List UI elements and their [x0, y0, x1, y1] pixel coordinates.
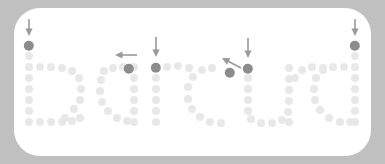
stroke-dot: [198, 66, 206, 74]
stroke-dot: [104, 107, 112, 115]
stroke-dot: [291, 74, 299, 82]
stroke-dot: [130, 85, 138, 93]
stroke-dot: [123, 117, 131, 125]
stroke-dot: [77, 85, 85, 93]
figure-canvas: [0, 0, 385, 164]
stroke-dot: [25, 107, 33, 115]
stroke-dot: [36, 63, 44, 71]
stroke-dot: [340, 63, 348, 71]
stroke-dot: [68, 67, 76, 75]
stroke-dot: [244, 107, 252, 115]
dot-scatter-plot: [0, 0, 385, 164]
stroke-dot: [25, 85, 33, 93]
stroke-dot: [247, 115, 255, 123]
stroke-dot: [319, 66, 327, 74]
stroke-dot: [351, 52, 359, 60]
stroke-dot: [284, 108, 292, 116]
stroke-dot: [58, 64, 66, 72]
stroke-dot: [196, 113, 204, 121]
stroke-dot: [346, 118, 354, 126]
stroke-dot: [285, 86, 293, 94]
stroke-dot: [257, 119, 265, 127]
stroke-dot: [285, 97, 293, 105]
stroke-dot: [188, 105, 196, 113]
stroke-dot: [36, 118, 44, 126]
stroke-dot: [189, 73, 197, 81]
stroke-dot: [47, 63, 55, 71]
stroke-dot: [298, 66, 306, 74]
stroke-dot: [70, 105, 78, 113]
stroke-dot: [336, 118, 344, 126]
stroke-dot: [316, 106, 324, 114]
annotation-arrow-down: [148, 29, 164, 65]
stroke-dot: [75, 74, 83, 82]
stroke-dot: [351, 74, 359, 82]
stroke-dot: [244, 96, 252, 104]
stroke-dot: [25, 118, 33, 126]
stroke-dot: [351, 85, 359, 93]
stroke-dot: [152, 96, 160, 104]
stroke-dot: [329, 63, 337, 71]
stroke-dot: [217, 119, 225, 127]
stroke-dot: [206, 118, 214, 126]
stroke-dot: [152, 74, 160, 82]
stroke-dot: [351, 96, 359, 104]
stroke-dot: [47, 118, 55, 126]
stroke-dot: [312, 74, 320, 82]
stroke-dot: [351, 63, 359, 71]
stroke-dot: [152, 107, 160, 115]
stroke-dot: [25, 52, 33, 60]
stroke-dot: [97, 76, 105, 84]
stroke-dot: [310, 85, 318, 93]
stroke-dot: [130, 118, 138, 126]
stroke-dot: [130, 96, 138, 104]
stroke-dot: [152, 118, 160, 126]
stroke-dot: [113, 114, 121, 122]
stroke-dot: [96, 87, 104, 95]
stroke-dot: [184, 95, 192, 103]
stroke-dot: [184, 83, 192, 91]
stroke-dot: [244, 85, 252, 93]
stroke-dot: [311, 96, 319, 104]
stroke-dot: [285, 118, 293, 126]
annotation-arrow-down: [240, 30, 256, 66]
stroke-dot: [185, 64, 193, 72]
annotation-arrow-left: [107, 47, 145, 63]
stroke-dot: [109, 64, 117, 72]
stroke-dot: [163, 63, 171, 71]
stroke-dot: [25, 63, 33, 71]
stroke-dot: [130, 74, 138, 82]
stroke-dot: [285, 64, 293, 72]
highlight-dot-a-start: [124, 64, 134, 74]
stroke-dot: [25, 74, 33, 82]
stroke-dot: [68, 117, 76, 125]
stroke-dot: [268, 119, 276, 127]
stroke-dot: [308, 63, 316, 71]
stroke-dot: [25, 96, 33, 104]
stroke-dot: [351, 107, 359, 115]
stroke-dot: [152, 85, 160, 93]
stroke-dot: [100, 67, 108, 75]
stroke-dot: [58, 118, 66, 126]
annotation-arrow-down: [347, 11, 363, 44]
stroke-dot: [130, 107, 138, 115]
stroke-dot: [174, 62, 182, 70]
stroke-dot: [325, 114, 333, 122]
annotation-arrow-down: [21, 11, 37, 44]
stroke-dot: [98, 98, 106, 106]
stroke-dot: [76, 96, 84, 104]
stroke-dot: [76, 114, 84, 122]
